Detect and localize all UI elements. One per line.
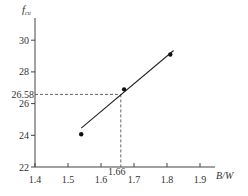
x-tick-label: 1.7 [128,174,141,185]
fit-line [81,51,173,129]
x-axis-title: B/W [216,170,235,181]
x-tick-label: 1.8 [161,174,174,185]
data-point [168,52,172,56]
y-axis-title: fcu [22,3,31,16]
x-tick-label: 1.9 [194,174,207,185]
data-points [79,52,173,136]
x-tick-label: 1.6 [95,174,108,185]
y-tick-label: 28 [19,66,29,77]
guide-y-label: 26.58 [12,89,35,100]
data-point [122,87,126,91]
y-tick-label: 24 [19,130,29,141]
regression-line [81,51,173,129]
x-tick-label: 1.4 [29,174,42,185]
guide-x-label: 1.66 [108,166,126,177]
chart: 22242628301.41.51.61.71.81.926.581.66fcu… [0,0,248,196]
y-tick-label: 22 [19,162,29,173]
x-tick-label: 1.5 [62,174,75,185]
y-tick-label: 30 [19,35,29,46]
data-point [79,132,83,136]
